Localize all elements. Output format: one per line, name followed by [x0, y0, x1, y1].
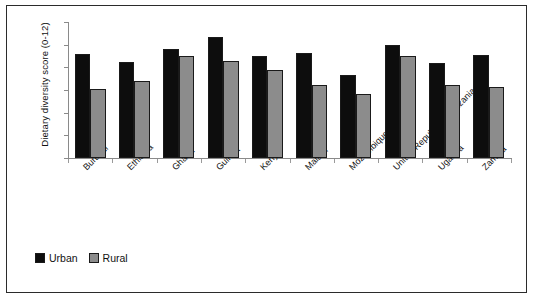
bar-urban-malawi	[296, 53, 312, 158]
chart-figure: Dietary diversity score (0-12) 024681012…	[0, 0, 533, 298]
bar-urban-burundi	[75, 54, 91, 158]
bar-urban-ghana	[163, 49, 179, 158]
bar-rural-guinea	[223, 61, 239, 158]
legend-label-rural: Rural	[103, 253, 128, 264]
legend-item-rural: Rural	[89, 253, 128, 264]
bar-rural-ethiopia	[134, 81, 150, 158]
x-tick-mark	[334, 159, 335, 163]
legend-item-urban: Urban	[35, 253, 78, 264]
bar-rural-burundi	[90, 89, 106, 158]
bar-rural-zambia	[489, 87, 505, 158]
bar-urban-guinea	[208, 37, 224, 158]
bar-rural-uganda	[445, 85, 461, 158]
bar-rural-malawi	[312, 85, 328, 158]
plot-area	[68, 22, 511, 158]
bar-urban-mozambique	[340, 75, 356, 158]
x-tick-mark	[245, 159, 246, 163]
legend-swatch-urban	[35, 253, 45, 263]
bar-rural-ghana	[179, 56, 195, 158]
bar-urban-united-republic-of-tanzania	[385, 45, 401, 158]
bar-urban-kenya	[252, 56, 268, 158]
x-tick-mark	[112, 159, 113, 163]
bar-rural-kenya	[267, 70, 283, 158]
chart-legend: UrbanRural	[32, 251, 131, 266]
bar-urban-ethiopia	[119, 62, 135, 158]
x-tick-mark	[68, 159, 69, 163]
legend-label-urban: Urban	[49, 253, 78, 264]
bar-rural-united-republic-of-tanzania	[400, 56, 416, 158]
bar-urban-uganda	[429, 63, 445, 158]
x-tick-mark	[157, 159, 158, 163]
x-tick-mark	[467, 159, 468, 163]
x-tick-mark	[422, 159, 423, 163]
x-tick-mark	[511, 159, 512, 163]
legend-swatch-rural	[89, 253, 99, 263]
bar-urban-zambia	[473, 55, 489, 158]
x-tick-mark	[201, 159, 202, 163]
bar-rural-mozambique	[356, 94, 372, 158]
x-tick-mark	[290, 159, 291, 163]
x-tick-mark	[378, 159, 379, 163]
y-axis-title: Dietary diversity score (0-12)	[39, 10, 50, 160]
